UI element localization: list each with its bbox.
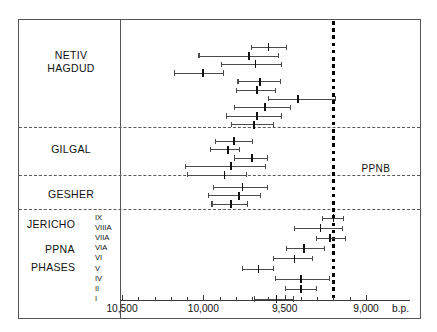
x-axis-tick <box>350 297 351 301</box>
x-axis-tick <box>171 297 172 301</box>
data-point-marker <box>255 60 257 68</box>
x-axis-tick <box>268 297 269 301</box>
error-bar-cap-high <box>275 88 276 93</box>
group-label-ppna: PPNA <box>45 243 75 255</box>
ppnb-label: PPNB <box>361 163 390 174</box>
data-point-marker <box>230 162 232 170</box>
group-label-gilgal: GILGAL <box>51 143 91 155</box>
data-point-marker <box>227 146 229 154</box>
error-bar-cap-high <box>280 79 281 84</box>
data-point-marker <box>251 154 253 162</box>
data-point-marker <box>303 244 305 252</box>
error-bar-cap-low <box>242 266 243 271</box>
phase-label-iv: IV <box>95 275 102 283</box>
error-bar-cap-high <box>281 113 282 118</box>
error-bar-range <box>210 149 239 150</box>
error-bar-cap-high <box>335 96 336 101</box>
data-point-marker <box>233 137 235 145</box>
error-bar-range <box>226 116 281 117</box>
chart-root: NETIV HAGDUD GILGAL GESHER JERICHO PPNA … <box>0 0 437 332</box>
error-bar-cap-low <box>294 226 295 231</box>
x-axis-tick <box>187 297 188 301</box>
error-bar-cap-high <box>286 45 287 50</box>
error-bar-cap-low <box>221 62 222 67</box>
error-bar-cap-high <box>343 216 344 221</box>
x-axis-unit-label: b.p. <box>392 303 409 314</box>
error-bar-cap-high <box>260 193 261 198</box>
data-point-marker <box>256 86 258 94</box>
error-bar-range <box>221 64 281 65</box>
phase-label-via: VIA <box>95 244 107 252</box>
ppnb-boundary-line <box>332 21 335 298</box>
error-bar-cap-high <box>223 70 224 75</box>
data-point-marker <box>258 265 260 273</box>
data-point-marker <box>238 192 240 200</box>
error-bar-cap-low <box>208 193 209 198</box>
data-point-marker <box>248 52 250 60</box>
error-bar-cap-high <box>312 256 313 261</box>
data-point-marker <box>259 78 261 86</box>
error-bar-cap-high <box>316 286 317 291</box>
error-bar-cap-low <box>231 122 232 127</box>
error-bar-cap-high <box>239 147 240 152</box>
error-bar-range <box>294 228 341 229</box>
group-label-netiv: NETIV <box>55 49 87 61</box>
data-point-marker <box>224 171 226 179</box>
x-axis-tick <box>285 295 286 301</box>
error-bar-cap-high <box>329 276 330 281</box>
error-bar-range <box>208 195 260 196</box>
x-axis-tick <box>252 297 253 301</box>
error-bar-cap-low <box>322 216 323 221</box>
error-bar-cap-high <box>247 201 248 206</box>
x-axis-tick-label: 10,500 <box>106 303 137 314</box>
error-bar-cap-low <box>275 276 276 281</box>
error-bar-cap-high <box>273 122 274 127</box>
error-bar-cap-high <box>273 266 274 271</box>
error-bar-cap-low <box>211 201 212 206</box>
error-bar-cap-high <box>267 185 268 190</box>
x-axis-tick <box>155 297 156 301</box>
error-bar-cap-low <box>185 164 186 169</box>
error-bar-cap-high <box>265 164 266 169</box>
x-axis-tick <box>138 297 139 301</box>
error-bar-cap-high <box>342 226 343 231</box>
data-point-marker <box>268 43 270 51</box>
data-point-marker <box>256 112 258 120</box>
error-bar-range <box>185 166 265 167</box>
error-bar-cap-low <box>226 113 227 118</box>
x-axis-line <box>120 300 410 301</box>
x-axis-tick <box>366 295 367 301</box>
x-axis-tick-label: 10,000 <box>188 303 219 314</box>
error-bar-cap-low <box>213 185 214 190</box>
phase-label-ix: IX <box>95 214 102 222</box>
error-bar-cap-low <box>268 96 269 101</box>
error-bar-cap-low <box>187 172 188 177</box>
data-point-marker <box>329 234 331 242</box>
error-bar-cap-high <box>324 246 325 251</box>
phase-label-i: I <box>95 295 97 303</box>
data-point-marker <box>320 224 322 232</box>
error-bar-cap-low <box>237 79 238 84</box>
chart-frame: NETIV HAGDUD GILGAL GESHER JERICHO PPNA … <box>18 19 421 319</box>
error-bar-cap-low <box>251 45 252 50</box>
phase-label-vi: VI <box>95 254 102 262</box>
data-point-marker <box>276 295 278 303</box>
x-axis-tick <box>122 295 123 301</box>
data-point-marker <box>294 255 296 263</box>
error-bar-cap-low <box>215 139 216 144</box>
data-point-marker <box>253 121 255 129</box>
group-separator-netiv-gilgal <box>19 127 420 128</box>
group-label-hagdud: HAGDUD <box>47 62 94 74</box>
x-axis-tick <box>317 297 318 301</box>
phase-label-viia: VIIA <box>95 234 109 242</box>
error-bar-cap-high <box>278 53 279 58</box>
data-point-marker <box>297 95 299 103</box>
x-axis-tick <box>220 297 221 301</box>
error-bar-range <box>213 187 267 188</box>
x-axis-tick <box>236 297 237 301</box>
data-point-marker <box>202 69 204 77</box>
phase-label-v: V <box>95 265 100 273</box>
error-bar-cap-high <box>246 172 247 177</box>
data-point-marker <box>300 285 302 293</box>
data-point-marker <box>333 214 335 222</box>
